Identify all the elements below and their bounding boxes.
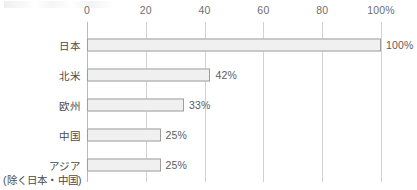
bar-row: 北米42%	[87, 60, 381, 90]
bar-row: 中国25%	[87, 120, 381, 150]
bar-3	[87, 99, 184, 112]
category-label-2: 北米	[59, 68, 80, 83]
plot-area: 日本100%北米42%欧州33%中国25%アジア25%	[87, 22, 381, 182]
category-label-1: 日本	[59, 38, 80, 53]
bar-2	[87, 69, 210, 82]
bar-value-label-3: 33%	[189, 99, 211, 111]
bar-row: 欧州33%	[87, 90, 381, 120]
category-label-5: アジア	[49, 158, 80, 173]
x-tick-label-0: 0	[84, 4, 90, 16]
x-tick-label-80: 80	[316, 4, 328, 16]
x-tick-label-100: 100%	[367, 4, 395, 16]
bar-chart: 日本100%北米42%欧州33%中国25%アジア25% 020406080100…	[0, 0, 417, 190]
bar-value-label-2: 42%	[215, 69, 237, 81]
bar-row: アジア25%	[87, 150, 381, 180]
bar-4	[87, 129, 161, 142]
x-tick-label-60: 60	[257, 4, 269, 16]
category-sublabel: (除く日本・中国)	[3, 172, 82, 187]
category-label-3: 欧州	[59, 98, 80, 113]
gridline-100	[381, 22, 382, 182]
x-tick-label-20: 20	[140, 4, 152, 16]
scan-artifact	[4, 1, 114, 8]
bar-5	[87, 159, 161, 172]
x-tick-label-40: 40	[199, 4, 211, 16]
bar-1	[87, 39, 381, 52]
bar-value-label-1: 100%	[386, 39, 414, 51]
bar-value-label-5: 25%	[166, 159, 188, 171]
category-label-4: 中国	[59, 128, 80, 143]
bar-value-label-4: 25%	[166, 129, 188, 141]
bar-row: 日本100%	[87, 30, 381, 60]
